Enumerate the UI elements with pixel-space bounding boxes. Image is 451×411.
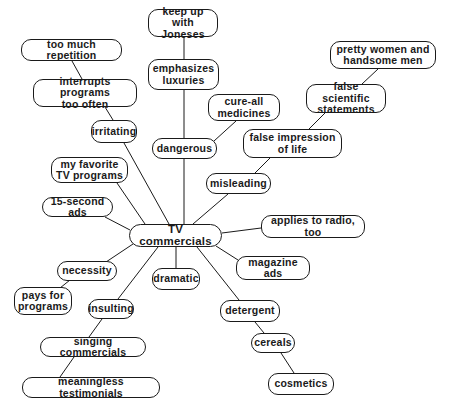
concept-node-interrupts: interrupts programs too often	[33, 79, 137, 107]
edge-favorite-tv	[117, 183, 145, 224]
concept-node-singing: singing commercials	[40, 337, 146, 357]
concept-node-pretty: pretty women and handsome men	[330, 41, 436, 69]
concept-node-testimonials: meaningless testimonials	[22, 377, 160, 398]
concept-node-detergent: detergent	[220, 300, 280, 322]
concept-node-cosmetics: cosmetics	[268, 373, 334, 395]
concept-node-irritating: irritating	[91, 120, 137, 143]
edge-fifteen-tv	[105, 217, 130, 230]
concept-node-pays: pays for programs	[14, 287, 72, 315]
concept-node-repetition: too much repetition	[21, 39, 122, 61]
concept-node-impression: false impression of life	[243, 129, 342, 158]
concept-node-luxuries: emphasizes luxuries	[148, 59, 219, 90]
edge-cereals-cosmetics	[281, 353, 294, 373]
edge-detergent-cereals	[255, 322, 264, 333]
edge-tv-detergent	[197, 247, 239, 300]
edge-misleading-tv	[193, 194, 228, 224]
concept-node-favorite: my favorite TV programs	[51, 157, 128, 183]
edge-tv-radio	[222, 228, 261, 233]
concept-node-cereals: cereals	[251, 333, 295, 353]
concept-node-radio: applies to radio, too	[261, 215, 365, 238]
concept-node-joneses: keep up with Joneses	[148, 9, 218, 37]
edge-tv-necessity	[106, 244, 133, 262]
edge-tv-magazine	[216, 246, 238, 260]
edge-cureall-dangerous	[214, 121, 236, 141]
concept-node-dangerous: dangerous	[152, 138, 217, 159]
central-node: TV commercials	[129, 224, 222, 247]
concept-node-magazine: magazine ads	[236, 256, 310, 280]
edge-singing-testimonials	[60, 357, 74, 377]
concept-map: TV commercialskeep up with Jonesesemphas…	[0, 0, 451, 411]
edge-impression-misleading	[255, 158, 270, 173]
concept-node-misleading: misleading	[206, 173, 271, 194]
concept-node-insulting: insulting	[88, 299, 134, 319]
concept-node-necessity: necessity	[57, 261, 117, 281]
concept-node-cureall: cure-all medicines	[208, 94, 280, 121]
concept-node-fifteen: 15-second ads	[42, 197, 113, 217]
concept-node-dramatic: dramatic	[152, 268, 200, 290]
concept-node-scientific: false scientific statements	[306, 84, 386, 113]
